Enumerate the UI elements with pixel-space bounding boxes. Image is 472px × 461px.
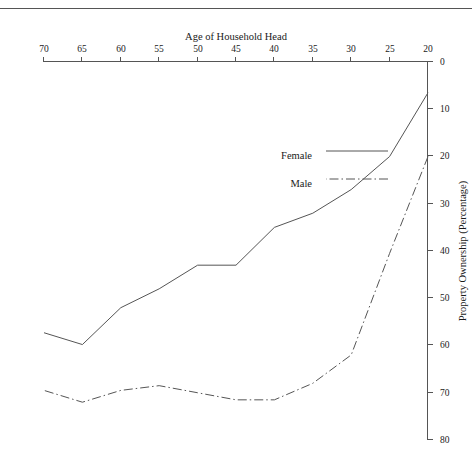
x-tick-label: 45 (231, 44, 241, 54)
plot-area: 01020304050607080 2025303540455055606570… (44, 62, 428, 440)
y-tick-label: 60 (440, 341, 450, 351)
y-tick (428, 156, 433, 157)
legend-item-male: Male (238, 166, 388, 194)
legend-key-solid (326, 151, 388, 153)
y-tick-label: 20 (440, 152, 450, 162)
x-tick-label: 70 (39, 44, 49, 54)
y-tick-label: 0 (440, 57, 445, 67)
y-tick-label: 80 (440, 435, 450, 445)
y-tick (428, 392, 433, 393)
y-tick (428, 108, 433, 109)
y-tick (428, 203, 433, 204)
legend-label-female: Female (281, 150, 312, 161)
y-tick-label: 10 (440, 104, 450, 114)
x-axis-title: Age of Household Head (185, 31, 287, 42)
y-tick-label: 70 (440, 388, 450, 398)
legend-label-male: Male (290, 178, 312, 189)
header-rule (0, 8, 472, 9)
y-axis-title: Property Ownership (Percentage) (457, 181, 468, 322)
data-lines (44, 62, 428, 440)
y-tick-label: 40 (440, 246, 450, 256)
y-tick (428, 297, 433, 298)
y-tick-label: 30 (440, 199, 450, 209)
x-tick-label: 30 (346, 44, 356, 54)
legend-key-dashdot (326, 179, 388, 181)
x-tick-label: 40 (270, 44, 280, 54)
chart-legend: Male Female (238, 134, 388, 194)
x-tick-label: 20 (423, 44, 433, 54)
series-line-female (44, 93, 428, 345)
chart-figure: 01020304050607080 2025303540455055606570… (0, 0, 472, 461)
legend-item-female: Female (238, 138, 388, 166)
y-tick (428, 61, 433, 62)
y-tick (428, 439, 433, 440)
x-tick-label: 65 (78, 44, 88, 54)
y-tick (428, 250, 433, 251)
x-tick-label: 60 (116, 44, 126, 54)
x-tick-label: 35 (308, 44, 318, 54)
x-tick-label: 50 (193, 44, 203, 54)
y-tick (428, 345, 433, 346)
x-tick-label: 25 (385, 44, 395, 54)
x-tick-label: 55 (154, 44, 164, 54)
y-tick-label: 50 (440, 293, 450, 303)
